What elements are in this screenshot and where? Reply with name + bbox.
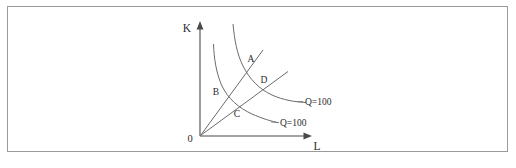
- figure-root: K L 0 A B C D Q=100 Q=100: [0, 0, 516, 168]
- point-label-c: C: [234, 109, 240, 119]
- isoquant-chart: K L 0 A B C D Q=100 Q=100: [0, 0, 516, 168]
- origin-label: 0: [187, 133, 192, 144]
- x-axis-arrow-icon: [304, 133, 313, 140]
- isoquant-curve-lower: [214, 44, 280, 123]
- leader-line-lower-label: [271, 122, 278, 123]
- point-label-d: D: [261, 75, 268, 85]
- x-axis-label: L: [313, 140, 320, 152]
- expansion-ray-shallow: [201, 72, 289, 136]
- point-label-b: B: [213, 87, 219, 97]
- y-axis-label: K: [183, 22, 192, 34]
- isoquant-label-upper: Q=100: [305, 97, 332, 107]
- point-label-a: A: [248, 54, 255, 64]
- isoquant-curve-upper: [233, 24, 306, 103]
- y-axis-arrow-icon: [197, 21, 204, 30]
- isoquant-label-lower: Q=100: [280, 118, 307, 128]
